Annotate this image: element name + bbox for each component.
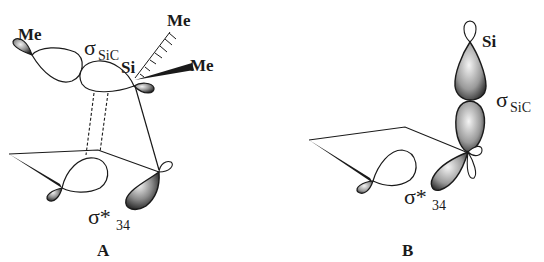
caption-b: B xyxy=(402,241,413,260)
dashed-interaction xyxy=(86,93,108,155)
orbital-diagram: Me σ SiC Si Me Me σ* 34 A Si σ SiC σ* 34 xyxy=(0,0,544,262)
ring-wedge-b xyxy=(309,140,373,183)
label-sigma-sic-b: σ xyxy=(496,87,508,112)
sigma-star-small-lobe xyxy=(47,188,62,201)
label-si-b: Si xyxy=(482,32,496,51)
panel-a: Me σ SiC Si Me Me σ* 34 A xyxy=(9,11,214,260)
panel-b: Si σ SiC σ* 34 B xyxy=(309,21,531,260)
ring-wedge xyxy=(9,154,62,188)
ring-plane-b xyxy=(309,127,466,152)
sigma-star-dark-lobe-b xyxy=(431,152,468,190)
label-me-right: Me xyxy=(190,56,214,75)
label-sigma-sic: σ xyxy=(84,35,96,60)
label-me-top: Me xyxy=(167,11,191,30)
si-small-open-lobe xyxy=(464,21,476,42)
sigma-star-small-lobe-b xyxy=(357,181,373,193)
label-sigma-sic-sub: SiC xyxy=(98,48,119,63)
sigma-star-open-lobe-b xyxy=(373,150,416,185)
sigma-star-small-open-lobe xyxy=(159,161,172,172)
sigma-star-open-lobe xyxy=(62,158,108,192)
label-sigma-sic-sub-b: SiC xyxy=(510,100,531,115)
sigma-star-dark-lobe xyxy=(126,172,159,209)
me-c-open-lobe xyxy=(32,48,82,82)
caption-a: A xyxy=(97,241,110,260)
label-sigma-star-b: σ* xyxy=(404,184,427,209)
si-ring-bond xyxy=(135,86,159,170)
label-me-left: Me xyxy=(18,25,42,44)
sigma-sic-dark-lobe xyxy=(456,101,485,152)
label-si: Si xyxy=(121,58,135,77)
label-sigma-star-sub-b: 34 xyxy=(432,198,446,213)
label-sigma-star-sub: 34 xyxy=(116,218,130,233)
label-sigma-star: σ* xyxy=(88,204,111,229)
